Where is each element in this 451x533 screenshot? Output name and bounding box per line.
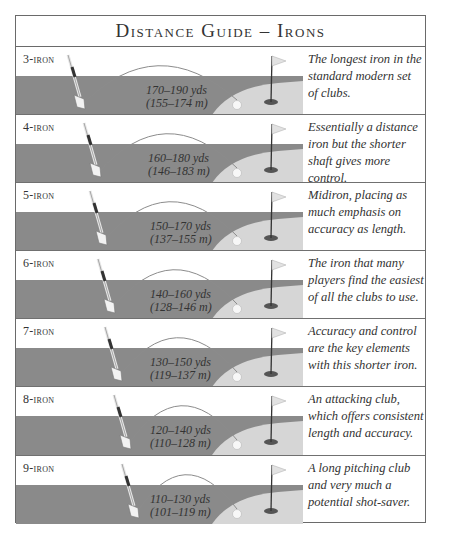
distance-range: 150–170 yds (137–155 m): [150, 220, 212, 246]
club-rows: 3-iron 170–190 yds (155–174 m) The longe…: [16, 47, 425, 524]
shot-illustration: 7-iron 130–150 yds (119–137 m): [16, 319, 303, 386]
golf-ball-icon: [233, 509, 242, 518]
shot-illustration: 6-iron 140–160 yds (128–146 m): [16, 251, 303, 318]
club-row-4-iron: 4-iron 160–180 yds (146–183 m) Essential…: [16, 115, 425, 183]
club-row-8-iron: 8-iron 120–140 yds (110–128 m) An attack…: [16, 387, 425, 455]
shot-illustration: 3-iron 170–190 yds (155–174 m): [16, 47, 303, 114]
distance-range: 120–140 yds (110–128 m): [150, 424, 211, 450]
distance-range: 160–180 yds (146–183 m): [148, 152, 210, 178]
distance-meters: (119–137 m): [150, 369, 211, 382]
distance-meters: (110–128 m): [150, 437, 211, 450]
club-description: Accuracy and control are the key element…: [308, 323, 424, 374]
golf-ball-icon: [233, 169, 242, 178]
club-row-9-iron: 9-iron 110–130 yds (101–119 m) A long pi…: [16, 456, 425, 524]
club-name: 4-iron: [23, 120, 54, 135]
club-name: 6-iron: [23, 256, 54, 271]
shot-illustration: 4-iron 160–180 yds (146–183 m): [16, 115, 303, 182]
club-description: The longest iron in the standard modern …: [308, 51, 424, 102]
shot-illustration: 5-iron 150–170 yds (137–155 m): [16, 183, 303, 250]
distance-guide-table: Distance Guide – Irons 3-iron 170–190 yd…: [15, 15, 426, 523]
distance-range: 140–160 yds (128–146 m): [150, 288, 212, 314]
distance-meters: (128–146 m): [150, 301, 212, 314]
distance-meters: (137–155 m): [150, 233, 212, 246]
club-name: 3-iron: [23, 52, 54, 67]
club-row-5-iron: 5-iron 150–170 yds (137–155 m) Midiron, …: [16, 183, 425, 251]
club-description: The iron that many players find the easi…: [308, 255, 424, 306]
club-description: Essentially a distance iron but the shor…: [308, 119, 424, 187]
shot-illustration: 8-iron 120–140 yds (110–128 m): [16, 387, 303, 454]
club-description: An attacking club, which offers consiste…: [308, 391, 424, 442]
golf-ball-icon: [233, 237, 242, 246]
club-row-3-iron: 3-iron 170–190 yds (155–174 m) The longe…: [16, 47, 425, 115]
golf-ball-icon: [233, 441, 242, 450]
distance-yards: 110–130 yds: [150, 493, 211, 506]
club-row-7-iron: 7-iron 130–150 yds (119–137 m) Accuracy …: [16, 319, 425, 387]
distance-range: 170–190 yds (155–174 m): [146, 84, 208, 110]
club-description: A long pitching club and very much a pot…: [308, 460, 424, 511]
distance-meters: (155–174 m): [146, 97, 208, 110]
golf-ball-icon: [233, 305, 242, 314]
distance-meters: (146–183 m): [148, 165, 210, 178]
golf-ball-icon: [233, 101, 242, 110]
guide-title: Distance Guide – Irons: [16, 16, 425, 47]
shot-illustration: 9-iron 110–130 yds (101–119 m): [16, 456, 303, 524]
club-name: 5-iron: [23, 188, 54, 203]
golf-ball-icon: [233, 373, 242, 382]
distance-range: 130–150 yds (119–137 m): [150, 356, 211, 382]
distance-meters: (101–119 m): [150, 506, 211, 519]
club-name: 9-iron: [23, 461, 54, 476]
club-name: 8-iron: [23, 392, 54, 407]
distance-range: 110–130 yds (101–119 m): [150, 493, 211, 519]
club-description: Midiron, placing as much emphasis on acc…: [308, 187, 424, 238]
club-row-6-iron: 6-iron 140–160 yds (128–146 m) The iron …: [16, 251, 425, 319]
adjacent-page-fragment: [436, 20, 451, 220]
club-name: 7-iron: [23, 324, 54, 339]
